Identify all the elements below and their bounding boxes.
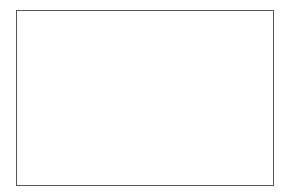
frame-border (17, 11, 274, 186)
diagram-canvas (0, 0, 285, 194)
